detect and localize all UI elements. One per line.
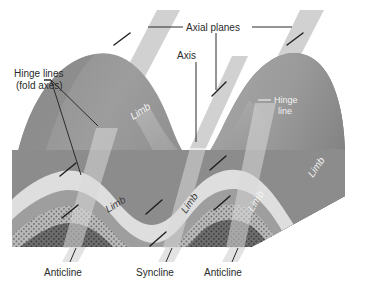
label-anticline-right: Anticline <box>204 267 242 278</box>
label-anticline-left: Anticline <box>44 267 82 278</box>
label-axis: Axis <box>177 50 196 61</box>
label-hinge-lines-line2: (fold axes) <box>16 80 63 91</box>
label-axial-planes: Axial planes <box>186 22 240 33</box>
label-hinge-line-right-line2: line <box>278 106 292 116</box>
label-hinge-lines-line1: Hinge lines <box>14 68 63 79</box>
fold-block-diagram: Axial planes Axis Hinge lines (fold axes… <box>0 0 369 288</box>
label-syncline: Syncline <box>136 267 174 278</box>
label-hinge-line-right-line1: Hinge <box>274 95 298 105</box>
